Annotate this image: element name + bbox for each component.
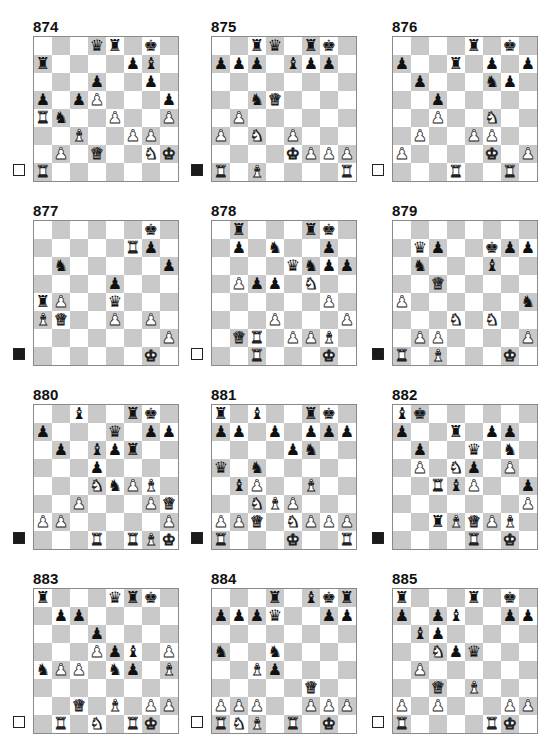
white-rook-icon: ♜ [395, 347, 409, 365]
square-b2: ♛ [230, 329, 248, 347]
square-e3: ♟ [106, 311, 124, 329]
square-e2 [465, 145, 483, 163]
square-f5 [483, 275, 501, 293]
square-f2: ♟ [302, 145, 320, 163]
square-h4 [160, 293, 178, 311]
square-f8 [483, 221, 501, 239]
black-pawn-icon: ♟ [214, 423, 228, 441]
black-knight-icon: ♞ [304, 441, 318, 459]
square-e7 [106, 55, 124, 73]
square-d7 [88, 607, 106, 625]
square-g6 [320, 441, 338, 459]
square-e1 [284, 163, 302, 181]
white-queen-icon: ♛ [90, 145, 104, 163]
black-pawn-icon: ♟ [162, 91, 176, 109]
square-g3 [142, 679, 160, 697]
square-d7 [266, 55, 284, 73]
puzzle-number: 875 [211, 18, 237, 35]
square-c6 [248, 257, 266, 275]
square-f1: ♜ [483, 715, 501, 733]
square-b3 [411, 311, 429, 329]
white-rook-icon: ♜ [485, 715, 499, 733]
black-bishop-icon: ♝ [90, 441, 104, 459]
square-e6 [106, 257, 124, 275]
square-b7: ♟ [52, 607, 70, 625]
white-pawn-icon: ♟ [232, 275, 246, 293]
square-d3 [447, 679, 465, 697]
square-h4 [338, 661, 356, 679]
square-h1 [338, 715, 356, 733]
white-bishop-icon: ♝ [467, 679, 481, 697]
square-f6 [483, 441, 501, 459]
black-bishop-icon: ♝ [286, 55, 300, 73]
black-pawn-icon: ♟ [268, 275, 282, 293]
black-king-icon: ♚ [413, 405, 427, 423]
square-h2 [338, 329, 356, 347]
black-pawn-icon: ♟ [90, 459, 104, 477]
square-d5: ♟ [88, 459, 106, 477]
square-b5 [230, 91, 248, 109]
square-c7 [70, 239, 88, 257]
square-d6 [447, 257, 465, 275]
square-e6 [106, 625, 124, 643]
square-g2: ♟ [142, 697, 160, 715]
square-a8 [212, 589, 230, 607]
square-f8: ♝ [302, 589, 320, 607]
square-b3 [411, 679, 429, 697]
square-d1 [266, 163, 284, 181]
square-h1 [338, 347, 356, 365]
square-e1: ♜ [465, 531, 483, 549]
square-b4: ♟ [52, 661, 70, 679]
square-f4: ♝ [302, 477, 320, 495]
square-d8 [447, 37, 465, 55]
white-bishop-icon: ♝ [72, 127, 86, 145]
square-f7: ♟ [483, 55, 501, 73]
square-g2 [142, 513, 160, 531]
square-c3: ♝ [70, 127, 88, 145]
square-e5: ♛ [465, 643, 483, 661]
square-e8: ♛ [106, 589, 124, 607]
black-pawn-icon: ♟ [413, 73, 427, 91]
square-a7 [393, 239, 411, 257]
square-g1 [320, 531, 338, 549]
square-h6 [338, 441, 356, 459]
square-f5 [483, 643, 501, 661]
black-to-move-icon [13, 532, 25, 544]
square-f7 [302, 607, 320, 625]
square-h3: ♟ [338, 311, 356, 329]
square-c6 [248, 73, 266, 91]
square-g4 [320, 477, 338, 495]
square-g7: ♟ [320, 423, 338, 441]
square-g2: ♟ [501, 697, 519, 715]
square-d7: ♛ [266, 607, 284, 625]
square-h6 [519, 257, 537, 275]
square-a7: ♟ [212, 423, 230, 441]
square-d6 [447, 441, 465, 459]
black-pawn-icon: ♟ [521, 55, 535, 73]
square-h8 [160, 221, 178, 239]
square-d1 [88, 163, 106, 181]
square-g2: ♟ [320, 145, 338, 163]
square-g4: ♝ [142, 477, 160, 495]
white-king-icon: ♚ [322, 715, 336, 733]
black-king-icon: ♚ [503, 589, 517, 607]
square-f2: ♟ [302, 697, 320, 715]
square-d8 [88, 221, 106, 239]
square-g1: ♚ [142, 347, 160, 365]
puzzle-882: 882♝♚♟♜♟♟♟♛♞♟♞♟♟♜♝♟♟♟♜♝♛♟♝♜♚ [372, 386, 549, 561]
white-knight-icon: ♞ [485, 109, 499, 127]
square-b6 [230, 625, 248, 643]
puzzle-875: 875♜♛♜♚♟♟♟♝♟♟♞♛♟♟♞♟♚♟♟♟♜♝♜ [191, 18, 371, 193]
white-bishop-icon: ♝ [503, 513, 517, 531]
black-pawn-icon: ♟ [340, 607, 354, 625]
square-c1 [429, 715, 447, 733]
white-rook-icon: ♜ [90, 531, 104, 549]
chessboard: ♚♜♟♞♟♟♜♟♛♝♛♟♟♟♚ [33, 220, 179, 366]
square-g1: ♚ [501, 347, 519, 365]
white-knight-icon: ♞ [144, 145, 158, 163]
black-pawn-icon: ♟ [340, 257, 354, 275]
square-h7 [160, 607, 178, 625]
square-h5 [160, 459, 178, 477]
square-e1 [106, 531, 124, 549]
white-queen-icon: ♛ [268, 91, 282, 109]
